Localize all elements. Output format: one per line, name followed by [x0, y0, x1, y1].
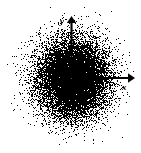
- x-axis-label: x: [122, 83, 127, 92]
- y-axis-label: y: [60, 17, 64, 26]
- scatter-point-field: [0, 0, 141, 153]
- scatter-figure: x y: [0, 0, 141, 153]
